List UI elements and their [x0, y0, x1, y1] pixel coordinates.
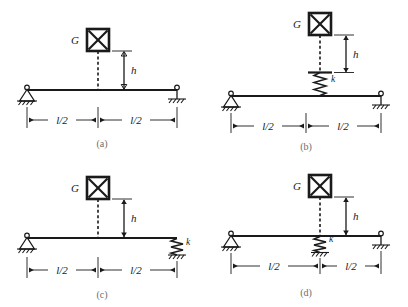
height-dimension — [334, 197, 354, 235]
weight-label: G — [293, 180, 301, 192]
stiffness-label: k — [331, 74, 336, 84]
height-label: h — [131, 212, 137, 224]
span-dimension — [27, 107, 177, 128]
mass-block — [309, 175, 331, 197]
panel-caption: (d) — [300, 287, 312, 299]
dim-right-label: l/2 — [130, 114, 142, 126]
dim-right-label: l/2 — [130, 264, 142, 276]
panel-b-drawing: G k h — [204, 0, 408, 153]
dim-left-label: l/2 — [268, 260, 280, 272]
height-label: h — [353, 210, 359, 222]
weight-label: G — [293, 18, 301, 30]
panel-caption: (a) — [96, 138, 107, 150]
right-roller-support — [372, 231, 390, 249]
weight-label: G — [71, 34, 79, 46]
panel-caption: (b) — [300, 141, 312, 153]
panel-d-drawing: G h — [204, 154, 408, 307]
panel-a: G h — [0, 0, 204, 153]
height-dimension — [334, 35, 354, 73]
spring-coil — [314, 73, 326, 96]
panel-c-drawing: G h — [0, 154, 204, 307]
right-roller-support — [168, 85, 186, 103]
panel-a-drawing: G h — [0, 0, 204, 153]
midspan-spring-support — [311, 237, 329, 257]
height-dimension — [112, 199, 132, 237]
left-pin-support — [17, 233, 37, 253]
span-dimension — [27, 257, 177, 278]
dim-left-label: l/2 — [56, 264, 68, 276]
height-label: h — [131, 64, 137, 76]
mass-block — [87, 29, 109, 51]
right-spring-support — [168, 239, 186, 260]
span-dimension — [231, 251, 381, 274]
mass-block — [87, 177, 109, 199]
dim-right-label: l/2 — [337, 120, 349, 132]
dim-right-label: l/2 — [345, 260, 357, 272]
figure-root: G h — [0, 0, 408, 307]
left-pin-support — [17, 85, 37, 105]
height-label: h — [353, 48, 359, 60]
dim-left-label: l/2 — [56, 114, 68, 126]
panel-c: G h — [0, 154, 204, 307]
height-dimension — [112, 51, 132, 89]
panel-d: G h — [204, 154, 408, 307]
weight-label: G — [71, 182, 79, 194]
dim-left-label: l/2 — [262, 120, 274, 132]
span-dimension — [231, 113, 381, 133]
right-roller-support — [372, 91, 390, 109]
left-pin-support — [221, 91, 241, 111]
stiffness-label: k — [186, 237, 191, 247]
mass-block — [309, 13, 331, 35]
panel-b: G k h — [204, 0, 408, 153]
panel-caption: (c) — [96, 289, 107, 301]
left-pin-support — [221, 231, 241, 251]
